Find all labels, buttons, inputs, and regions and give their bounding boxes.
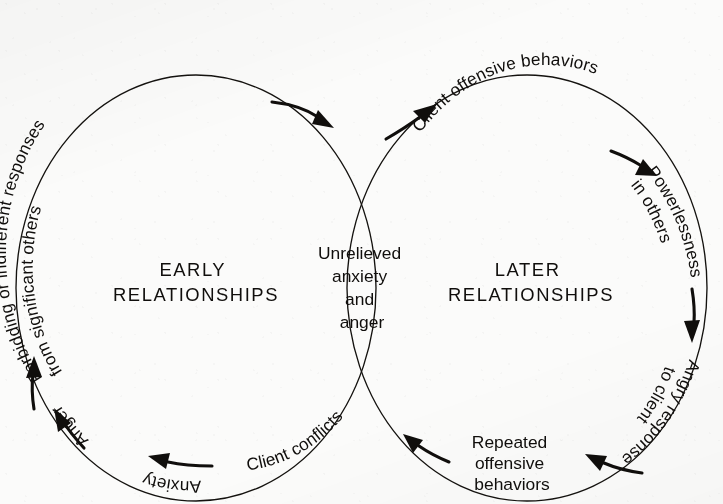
cycle-diagram: Forbidding or indifferent responses from… bbox=[0, 0, 723, 504]
later-title-line1: LATER bbox=[495, 259, 561, 280]
early-relationships-title: EARLY RELATIONSHIPS bbox=[113, 259, 279, 305]
later-relationships-title: LATER RELATIONSHIPS bbox=[448, 259, 614, 305]
overlap-line1: Unrelieved bbox=[318, 243, 401, 263]
arrow-repeated-to-overlap bbox=[403, 434, 449, 462]
overlap-line4: anger bbox=[340, 312, 385, 332]
repeated-line3: behaviors bbox=[474, 474, 550, 494]
arrow-powerlessness-to-angry-response bbox=[684, 289, 700, 343]
label-repeated-offensive-behaviors: Repeated offensive behaviors bbox=[472, 432, 552, 494]
overlap-label: Unrelieved anxiety and anger bbox=[318, 243, 406, 332]
early-title-line1: EARLY bbox=[159, 259, 225, 280]
label-anger: Anger bbox=[46, 402, 91, 451]
label-client-conflicts: Client conflicts bbox=[245, 406, 347, 474]
repeated-line1: Repeated bbox=[472, 432, 547, 452]
overlap-line2: anxiety bbox=[332, 266, 387, 286]
label-client-offensive-behaviors: Client offensive behaviors bbox=[408, 49, 601, 136]
arrow-client-conflicts-to-anxiety bbox=[148, 453, 212, 469]
repeated-line2: offensive bbox=[475, 453, 544, 473]
figure-canvas: Forbidding or indifferent responses from… bbox=[0, 0, 723, 504]
early-title-line2: RELATIONSHIPS bbox=[113, 284, 279, 305]
arrow-forbidding-to-overlap bbox=[272, 102, 334, 128]
overlap-line3: and bbox=[345, 289, 374, 309]
later-title-line2: RELATIONSHIPS bbox=[448, 284, 614, 305]
arrow-offensive-to-powerlessness bbox=[611, 151, 657, 176]
